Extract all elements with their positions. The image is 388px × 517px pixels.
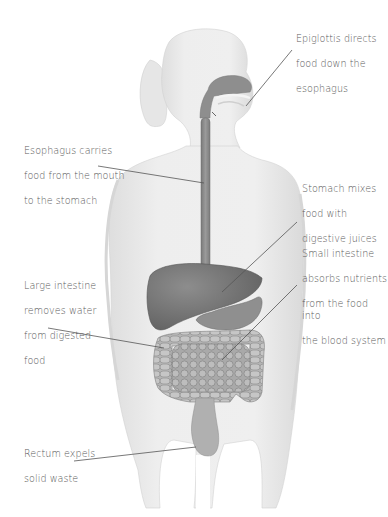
- label-epiglottis: Epiglottis directs food down the esophag…: [296, 21, 377, 108]
- label-line: from digested: [24, 330, 96, 342]
- label-line: to the stomach: [24, 195, 125, 207]
- label-line: Esophagus carries: [24, 145, 125, 157]
- label-line: absorbs nutrients: [302, 273, 388, 285]
- esophagus: [201, 118, 210, 276]
- label-line: Epiglottis directs: [296, 33, 377, 45]
- label-rectum: Rectum expels solid waste: [24, 436, 95, 498]
- small-intestine: [172, 344, 250, 392]
- label-line: Stomach mixes: [302, 183, 377, 195]
- label-esophagus: Esophagus carries food from the mouth to…: [24, 133, 125, 220]
- label-line: from the food into: [302, 298, 388, 323]
- label-line: Small intestine: [302, 248, 388, 260]
- label-large-intestine: Large intestine removes water from diges…: [24, 268, 96, 380]
- label-small-intestine: Small intestine absorbs nutrients from t…: [302, 236, 388, 360]
- label-line: food: [24, 355, 96, 367]
- leader-epiglottis: [246, 50, 292, 106]
- label-line: food down the: [296, 58, 377, 70]
- label-line: food with: [302, 208, 377, 220]
- label-line: esophagus: [296, 83, 377, 95]
- label-line: food from the mouth: [24, 170, 125, 182]
- label-line: Large intestine: [24, 280, 96, 292]
- label-line: removes water: [24, 305, 96, 317]
- label-line: the blood system: [302, 335, 388, 347]
- label-line: Rectum expels: [24, 448, 95, 460]
- label-line: solid waste: [24, 473, 95, 485]
